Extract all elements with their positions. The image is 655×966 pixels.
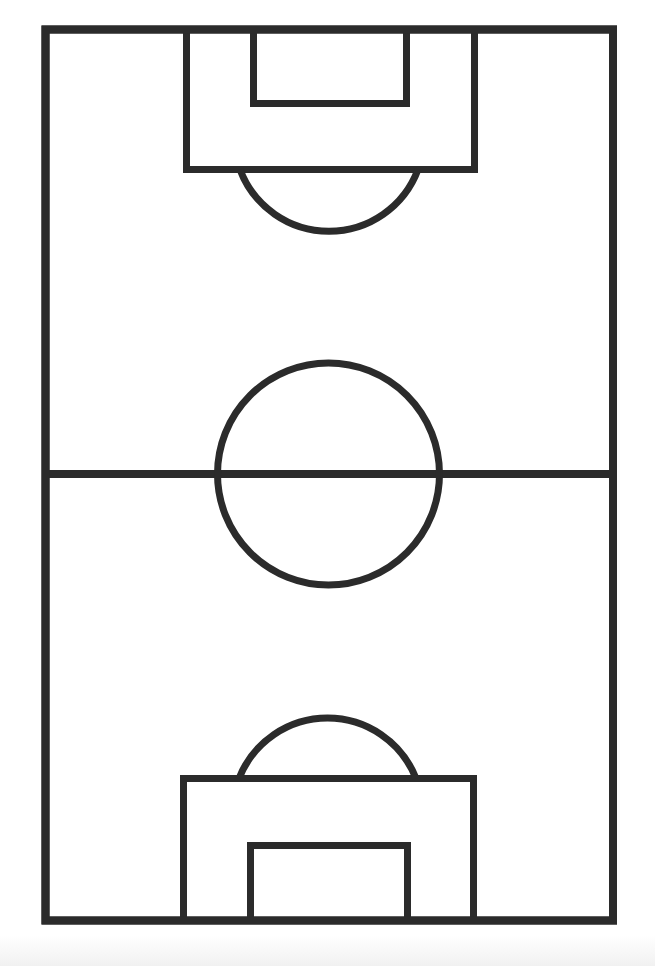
pitch-diagram-page: Soccer pitch bbox=[0, 0, 655, 966]
top-goal-area bbox=[254, 30, 407, 104]
top-penalty-area bbox=[187, 30, 475, 170]
bottom-goal-area bbox=[251, 846, 408, 921]
soccer-pitch bbox=[0, 0, 655, 966]
bottom-penalty-area bbox=[184, 779, 474, 921]
bottom-penalty-arc bbox=[239, 718, 416, 778]
top-penalty-arc bbox=[240, 170, 418, 232]
